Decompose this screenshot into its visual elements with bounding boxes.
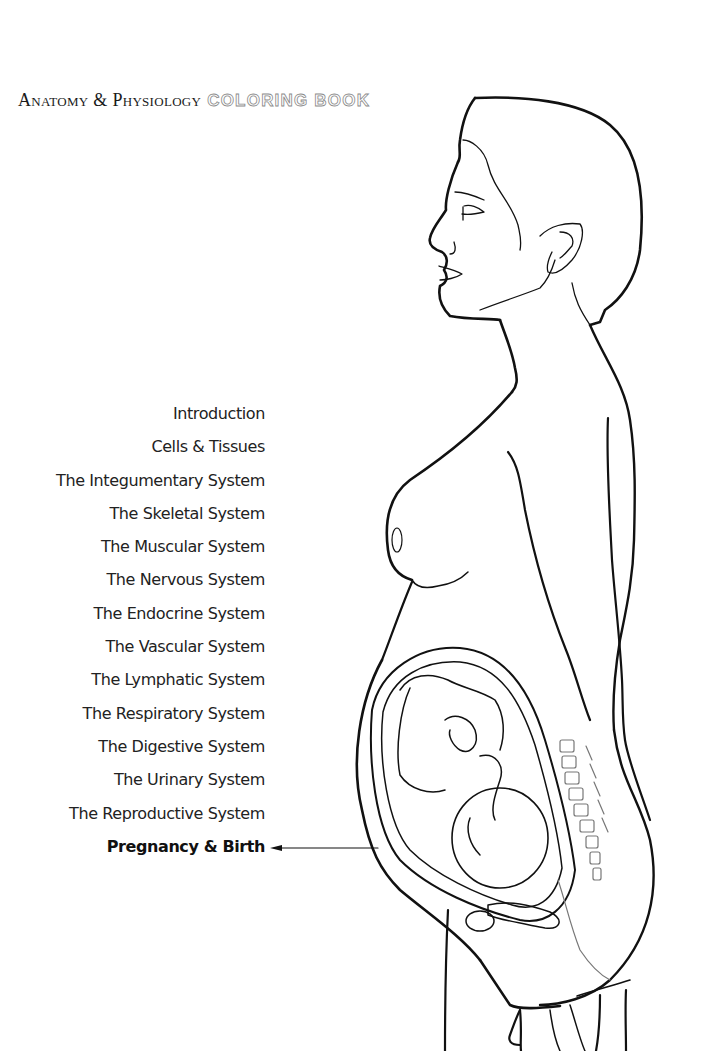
book-title-header: Anatomy & PhysiologyCOLORING BOOK xyxy=(18,91,370,109)
chapter-urinary[interactable]: The Urinary System xyxy=(5,768,265,801)
spine-vertebrae xyxy=(558,740,610,980)
chapter-digestive[interactable]: The Digestive System xyxy=(5,735,265,768)
chapter-pregnancy-birth-current[interactable]: Pregnancy & Birth xyxy=(5,835,265,868)
chapter-lymphatic[interactable]: The Lymphatic System xyxy=(5,668,265,701)
head-outline xyxy=(387,98,642,580)
book-page: Anatomy & PhysiologyCOLORING BOOK Introd… xyxy=(0,0,715,1051)
chapter-muscular[interactable]: The Muscular System xyxy=(5,535,265,568)
uterus-fetus xyxy=(371,648,575,931)
chapter-integumentary[interactable]: The Integumentary System xyxy=(5,469,265,502)
arrow-left-icon xyxy=(270,845,378,851)
legs-hand xyxy=(445,910,630,1051)
breast-outline xyxy=(382,528,468,660)
belly-outline xyxy=(357,660,560,1008)
chapter-reproductive[interactable]: The Reproductive System xyxy=(5,802,265,835)
chapter-vascular[interactable]: The Vascular System xyxy=(5,635,265,668)
chapter-nervous[interactable]: The Nervous System xyxy=(5,568,265,601)
back-outline xyxy=(540,325,654,1005)
chapter-skeletal[interactable]: The Skeletal System xyxy=(5,502,265,535)
chapter-list: Introduction Cells & Tissues The Integum… xyxy=(5,402,265,868)
chapter-respiratory[interactable]: The Respiratory System xyxy=(5,702,265,735)
arm-outline xyxy=(508,418,650,820)
chapter-cells-tissues[interactable]: Cells & Tissues xyxy=(5,435,265,468)
face-details xyxy=(439,140,590,325)
book-title-outline: COLORING BOOK xyxy=(207,91,370,110)
chapter-introduction[interactable]: Introduction xyxy=(5,402,265,435)
chapter-endocrine[interactable]: The Endocrine System xyxy=(5,602,265,635)
book-title-serif: Anatomy & Physiology xyxy=(18,90,201,110)
